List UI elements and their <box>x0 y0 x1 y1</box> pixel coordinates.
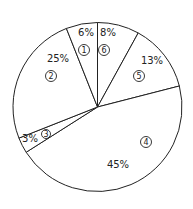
slice-number-label: 5 <box>136 72 141 81</box>
slice-percent-label: 13% <box>141 55 163 66</box>
slice-percent-label: 25% <box>47 53 69 64</box>
slice-number-label: 2 <box>48 72 53 81</box>
slice-number-label: 3 <box>43 130 48 139</box>
slice-number-label: 1 <box>81 46 86 55</box>
slice-percent-label: 3% <box>22 133 38 144</box>
slice-percent-label: 6% <box>78 27 94 38</box>
slice-percent-label: 45% <box>107 159 129 170</box>
pie-slices <box>13 23 182 192</box>
slice-percent-label: 8% <box>100 27 116 38</box>
pie-chart: 8%613%545%43%325%26%1 <box>0 0 193 209</box>
slice-number-label: 6 <box>101 46 106 55</box>
slice-number-label: 4 <box>143 138 148 147</box>
